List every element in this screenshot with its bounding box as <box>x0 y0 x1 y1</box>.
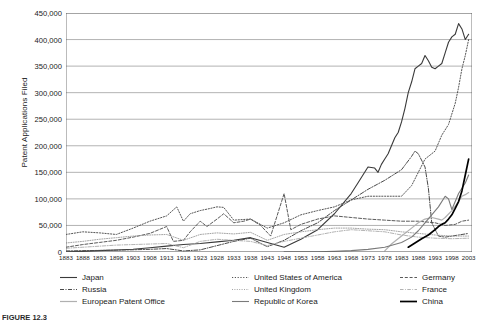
x-tick-label: 1983 <box>395 254 409 261</box>
x-tick-label: 1908 <box>143 254 157 261</box>
x-tick-label: 1883 <box>59 254 73 261</box>
legend-swatch-icon <box>400 298 417 305</box>
legend-swatch-icon <box>400 286 417 293</box>
x-tick-label: 1933 <box>227 254 241 261</box>
plot-area <box>66 13 472 252</box>
x-tick-label: 1888 <box>76 254 90 261</box>
x-tick-label: 1968 <box>344 254 358 261</box>
x-tick-label: 1953 <box>294 254 308 261</box>
y-tick-label: 150,000 <box>16 168 62 177</box>
legend-swatch-icon <box>400 274 417 281</box>
x-tick-label: 1973 <box>361 254 375 261</box>
y-tick-label: 0 <box>16 248 62 257</box>
x-tick-label: 1893 <box>93 254 107 261</box>
plot-canvas <box>66 13 472 252</box>
legend-item[interactable]: France <box>400 284 447 295</box>
legend-label: France <box>422 284 447 295</box>
legend-label: Germany <box>422 272 455 283</box>
y-axis-tick-labels: 050,000100,000150,000200,000250,000300,0… <box>8 0 62 322</box>
x-tick-label: 1938 <box>244 254 258 261</box>
y-tick-label: 450,000 <box>16 9 62 18</box>
x-tick-label: 1958 <box>311 254 325 261</box>
figure-patent-applications: Patent Applications Filed 050,000100,000… <box>0 0 488 322</box>
x-tick-label: 1943 <box>260 254 274 261</box>
y-tick-label: 400,000 <box>16 35 62 44</box>
series-line <box>284 175 469 252</box>
figure-caption: FIGURE 12.3 <box>2 313 47 322</box>
legend-item[interactable]: Japan <box>60 272 104 283</box>
x-tick-label: 1923 <box>193 254 207 261</box>
y-tick-label: 300,000 <box>16 88 62 97</box>
legend-label: Republic of Korea <box>254 296 318 307</box>
x-tick-label: 1963 <box>328 254 342 261</box>
legend-label: European Patent Office <box>82 296 165 307</box>
x-tick-label: 1998 <box>445 254 459 261</box>
legend-swatch-icon <box>60 286 77 293</box>
y-tick-label: 250,000 <box>16 115 62 124</box>
legend-label: United States of America <box>254 272 342 283</box>
x-tick-label: 1928 <box>210 254 224 261</box>
x-tick-label: 1918 <box>177 254 191 261</box>
legend-item[interactable]: China <box>400 296 443 307</box>
x-tick-label: 1993 <box>428 254 442 261</box>
legend-label: United Kingdom <box>254 284 311 295</box>
x-axis-tick-labels: 1883188818931898190319081913191819231928… <box>66 254 472 266</box>
legend-item[interactable]: Germany <box>400 272 455 283</box>
series-line <box>66 40 469 235</box>
y-tick-label: 100,000 <box>16 194 62 203</box>
x-tick-label: 1978 <box>378 254 392 261</box>
y-tick-label: 200,000 <box>16 141 62 150</box>
x-tick-label: 1898 <box>109 254 123 261</box>
legend-swatch-icon <box>232 298 249 305</box>
legend-label: Japan <box>82 272 104 283</box>
legend-swatch-icon <box>60 274 77 281</box>
legend-swatch-icon <box>60 298 77 305</box>
y-tick-label: 350,000 <box>16 62 62 71</box>
chart-legend: JapanUnited States of AmericaGermanyRuss… <box>60 272 480 308</box>
legend-swatch-icon <box>232 274 249 281</box>
legend-label: China <box>422 296 443 307</box>
x-tick-label: 1903 <box>126 254 140 261</box>
legend-item[interactable]: Republic of Korea <box>232 296 318 307</box>
x-tick-label: 1948 <box>277 254 291 261</box>
y-tick-label: 50,000 <box>16 221 62 230</box>
x-tick-label: 1988 <box>411 254 425 261</box>
legend-swatch-icon <box>232 286 249 293</box>
legend-item[interactable]: European Patent Office <box>60 296 165 307</box>
legend-item[interactable]: United Kingdom <box>232 284 311 295</box>
x-tick-label: 1913 <box>160 254 174 261</box>
x-tick-label: 2003 <box>462 254 476 261</box>
legend-item[interactable]: Russia <box>60 284 106 295</box>
series-line <box>66 24 469 252</box>
legend-label: Russia <box>82 284 106 295</box>
legend-item[interactable]: United States of America <box>232 272 342 283</box>
